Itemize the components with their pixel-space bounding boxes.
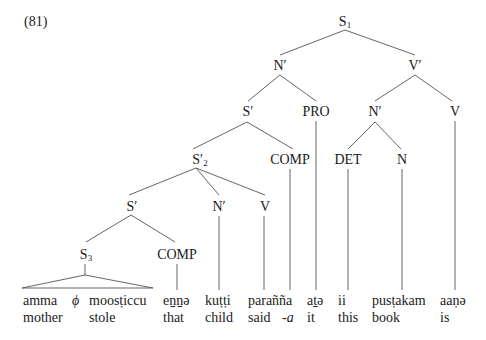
node-n-bar-child: N′ — [212, 199, 225, 215]
word-form: ϕ — [72, 293, 79, 309]
node-n-bar-top: N′ — [273, 58, 286, 74]
node-v-top: V — [450, 104, 460, 120]
word-form: parañña — [248, 293, 292, 309]
node-s-bar-1: S′ — [243, 104, 254, 120]
node-det: DET — [334, 152, 361, 168]
word-gloss: mother — [23, 310, 63, 326]
word-gloss: child — [205, 310, 233, 326]
node-pro: PRO — [302, 104, 329, 120]
word-gloss: this — [338, 310, 358, 326]
word-gloss: stole — [89, 310, 115, 326]
node-s-bar-3: S′ — [127, 199, 138, 215]
node-comp-2: COMP — [157, 247, 197, 263]
node-n-bar-obj: N′ — [368, 104, 381, 120]
node-s-bar-2: S′2 — [192, 152, 207, 171]
word-form: kuṭṭi — [205, 293, 231, 309]
word-form: amma — [23, 293, 57, 309]
word-gloss: -a — [282, 310, 294, 326]
node-comp-1: COMP — [270, 152, 310, 168]
word-gloss: that — [163, 310, 184, 326]
node-v-said: V — [260, 199, 270, 215]
node-s3: S3 — [80, 247, 92, 266]
node-v-bar-top: V′ — [408, 58, 421, 74]
tree-branches — [0, 0, 486, 340]
word-form: aṯə — [307, 293, 323, 309]
word-gloss: it — [307, 310, 315, 326]
word-gloss: said — [248, 310, 271, 326]
word-form: ii — [338, 293, 346, 309]
word-form: pusṭakam — [372, 293, 426, 309]
word-form: moosṭiccu — [89, 293, 147, 309]
node-n: N — [397, 152, 407, 168]
word-gloss: is — [440, 310, 449, 326]
node-s1: S1 — [339, 14, 351, 33]
word-form: eṉṉə — [163, 293, 189, 309]
word-form: aaṇə — [440, 293, 466, 309]
word-gloss: book — [372, 310, 400, 326]
